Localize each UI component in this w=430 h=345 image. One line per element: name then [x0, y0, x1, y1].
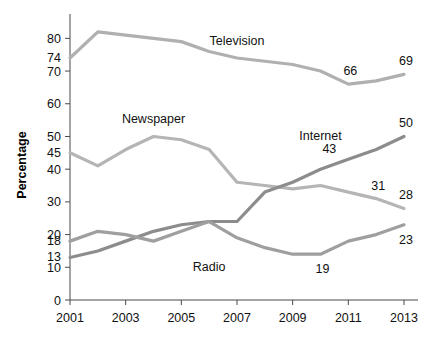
series-label-newspaper: Newspaper [122, 112, 185, 126]
chart-canvas: 0102030405060708020012003200520072009201… [0, 0, 430, 345]
value-label-television-69: 69 [399, 54, 413, 68]
x-tick-label-2003: 2003 [112, 311, 140, 325]
value-label-internet-43: 43 [322, 142, 336, 156]
value-label-radio-19: 19 [316, 262, 330, 276]
series-label-radio: Radio [193, 260, 226, 274]
y-tick-label-80: 80 [47, 32, 61, 46]
value-label-television-74: 74 [47, 51, 61, 65]
x-tick-label-2009: 2009 [279, 311, 307, 325]
x-tick-label-2001: 2001 [56, 311, 84, 325]
series-line-newspaper [70, 136, 404, 208]
value-label-radio-23: 23 [399, 233, 413, 247]
y-axis-title: Percentage [15, 131, 29, 198]
value-label-radio-18: 18 [47, 234, 61, 248]
value-label-internet-50: 50 [399, 116, 413, 130]
x-tick-label-2005: 2005 [167, 311, 195, 325]
value-label-newspaper-28: 28 [399, 188, 413, 202]
y-tick-label-70: 70 [47, 65, 61, 79]
y-tick-label-60: 60 [47, 97, 61, 111]
value-label-television-66: 66 [343, 64, 357, 78]
series-line-radio [70, 222, 404, 255]
y-tick-label-50: 50 [47, 130, 61, 144]
value-label-newspaper-45: 45 [47, 146, 61, 160]
x-tick-label-2011: 2011 [335, 311, 362, 325]
y-tick-label-40: 40 [47, 163, 61, 177]
x-tick-label-2007: 2007 [223, 311, 251, 325]
y-tick-label-30: 30 [47, 195, 61, 209]
x-tick-label-2013: 2013 [390, 311, 418, 325]
y-tick-label-0: 0 [54, 294, 61, 308]
series-label-internet: Internet [299, 129, 342, 143]
value-label-newspaper-31: 31 [371, 179, 385, 193]
value-label-internet-13: 13 [47, 250, 61, 264]
line-chart: 0102030405060708020012003200520072009201… [0, 0, 430, 345]
series-label-television: Television [210, 34, 265, 48]
